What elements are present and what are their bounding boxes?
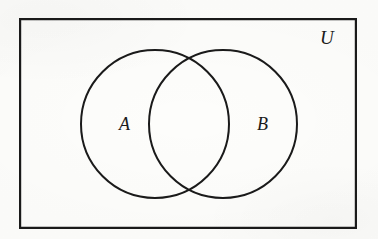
set-b-circle	[149, 50, 297, 198]
venn-diagram-figure: U A B	[0, 0, 378, 239]
universal-set-rectangle	[20, 19, 356, 228]
set-a-circle	[81, 50, 229, 198]
set-a-label: A	[119, 115, 130, 133]
set-b-label: B	[257, 115, 268, 133]
universal-set-label: U	[320, 28, 334, 47]
